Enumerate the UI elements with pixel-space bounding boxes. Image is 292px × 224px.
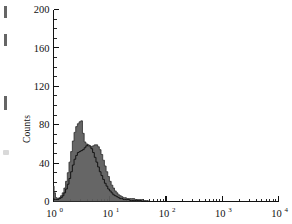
- x-tick-label: 102: [159, 206, 176, 219]
- y-axis-title: Counts: [22, 115, 32, 143]
- x-tick-label: 104: [271, 206, 288, 219]
- x-tick-label: 103: [215, 206, 232, 219]
- svg-text:10: 10: [215, 208, 226, 219]
- y-tick-label: 0: [44, 196, 49, 207]
- svg-text:0: 0: [60, 206, 64, 214]
- x-tick-label: 100: [46, 206, 63, 219]
- svg-text:3: 3: [228, 206, 232, 214]
- y-axis-group: 04080120160200: [34, 4, 59, 207]
- histogram-plot: 04080120160200 100101102103104: [0, 0, 292, 224]
- filled-histogram-trace: [54, 121, 150, 202]
- figure-panel: 04080120160200 100101102103104 Counts: [0, 0, 292, 224]
- y-tick-label: 40: [39, 158, 50, 169]
- svg-text:1: 1: [116, 206, 120, 214]
- svg-text:10: 10: [46, 208, 57, 219]
- x-tick-label: 101: [103, 206, 120, 219]
- svg-text:2: 2: [172, 206, 176, 214]
- y-tick-label: 120: [34, 81, 50, 92]
- y-tick-label: 160: [34, 43, 50, 54]
- svg-text:10: 10: [271, 208, 282, 219]
- series-group: [54, 121, 150, 202]
- svg-text:4: 4: [285, 206, 289, 214]
- svg-text:10: 10: [103, 208, 114, 219]
- svg-text:10: 10: [159, 208, 170, 219]
- y-tick-label: 80: [39, 119, 50, 130]
- y-tick-label: 200: [34, 4, 50, 15]
